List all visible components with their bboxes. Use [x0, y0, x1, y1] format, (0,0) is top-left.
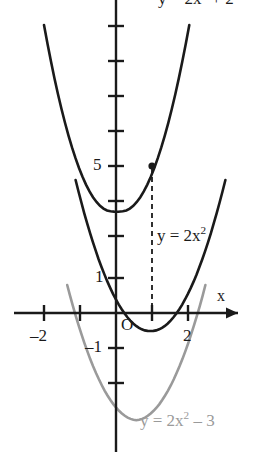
x-axis-label: x — [217, 288, 225, 304]
graph-figure: y = 2x2 + 2 y = 2x2 y = 2x2 – 3 x O –2 2… — [0, 0, 257, 466]
y-tick-label-neg1: –1 — [85, 338, 102, 355]
x-axis-arrow — [226, 308, 238, 319]
curve-label-top: y = 2x2 + 2 — [158, 0, 234, 7]
curve-label-bottom-tail: – 3 — [189, 411, 215, 430]
curve-label-bottom: y = 2x2 – 3 — [140, 412, 215, 429]
curve-label-top-tail: + 2 — [207, 0, 234, 8]
y-tick-label-1: 1 — [95, 268, 104, 285]
curve-label-middle-exponent: 2 — [201, 224, 207, 236]
x-tick-label-neg2: –2 — [30, 327, 47, 344]
curve-label-top-text: y = 2x — [158, 0, 202, 8]
curve-label-bottom-text: y = 2x — [140, 411, 184, 430]
curve-label-middle-text: y = 2x — [157, 226, 201, 245]
origin-label: O — [121, 316, 133, 333]
y-tick-label-5: 5 — [93, 156, 102, 173]
marked-point-dot — [148, 162, 155, 169]
x-tick-label-2: 2 — [183, 327, 192, 344]
curve-label-middle: y = 2x2 — [157, 227, 206, 244]
coordinate-plane — [0, 0, 257, 466]
